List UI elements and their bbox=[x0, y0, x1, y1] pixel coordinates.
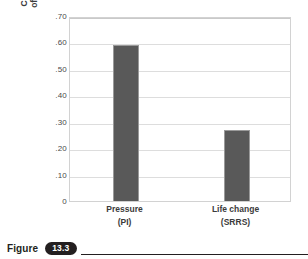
x-axis-category-name: Pressure bbox=[106, 204, 142, 214]
figure-caption: Figure 13.3 bbox=[0, 238, 308, 259]
x-axis-category-labels: Pressure(PI)Life change(SRRS) bbox=[69, 204, 291, 234]
y-axis-title-line-2: of psychological symptoms bbox=[29, 0, 39, 8]
y-axis-tick-label: .40 bbox=[36, 91, 67, 100]
gridline bbox=[70, 177, 290, 178]
bar bbox=[224, 130, 250, 201]
plot-area bbox=[69, 17, 291, 202]
figure-chart: Correlation with total index of psycholo… bbox=[0, 0, 308, 232]
gridline bbox=[70, 97, 290, 98]
figure-number-badge: 13.3 bbox=[45, 242, 76, 256]
figure-caption-word: Figure bbox=[7, 243, 38, 254]
x-axis-category-name: Life change bbox=[212, 204, 259, 214]
gridline bbox=[70, 44, 290, 45]
y-axis-tick-label: 0 bbox=[36, 197, 67, 206]
gridline bbox=[70, 18, 290, 19]
gridline bbox=[70, 150, 290, 151]
y-axis-tick-label: .30 bbox=[36, 118, 67, 127]
x-axis-category: Pressure(PI) bbox=[69, 204, 180, 234]
bar bbox=[113, 45, 139, 201]
y-axis-tick-label: .60 bbox=[36, 38, 67, 47]
y-axis-tick-labels: .70.60.50.40.30.20.100 bbox=[36, 11, 67, 207]
x-axis-category-sublabel: (SRRS) bbox=[221, 217, 250, 227]
gridline bbox=[70, 124, 290, 125]
y-axis-tick-label: .50 bbox=[36, 65, 67, 74]
x-axis-category-sublabel: (PI) bbox=[118, 217, 132, 227]
caption-rule bbox=[81, 254, 308, 255]
gridline bbox=[70, 71, 290, 72]
y-axis-tick-label: .20 bbox=[36, 144, 67, 153]
y-axis-tick-label: .70 bbox=[36, 12, 67, 21]
y-axis-tick-label: .10 bbox=[36, 171, 67, 180]
y-axis-title-line-1: Correlation with total index bbox=[19, 0, 29, 6]
x-axis-category: Life change(SRRS) bbox=[180, 204, 291, 234]
